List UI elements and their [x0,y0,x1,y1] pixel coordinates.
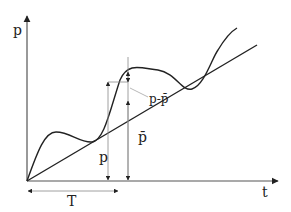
deviation-leader [130,88,148,97]
fluctuating-curve [27,28,237,181]
mean-value-label: p̄ [138,129,147,145]
x-axis-label: t [262,184,268,200]
deviation-label: p-p̄ [149,92,169,106]
y-axis-label: p [13,22,22,38]
pressure-time-diagram: p t T p p̄ p-p̄ [0,0,291,212]
instant-value-label: p [99,149,108,165]
mean-trend-line [27,45,257,181]
period-label: T [67,193,77,209]
